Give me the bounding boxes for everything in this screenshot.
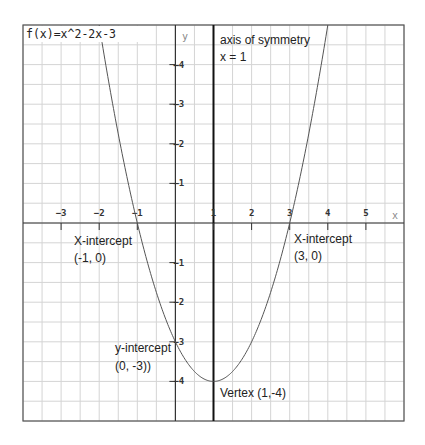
x-tick-label: 1 [211,208,216,218]
y-intercept-label: y-intercept [115,341,172,355]
y-tick-label: –1 [173,178,184,188]
x-axis-label: x [392,210,398,221]
y-tick-label: −4 [173,376,184,386]
chart-title: f(x)=x^2-2x-3 [26,27,116,41]
x-intercept-left-coords: (-1, 0) [74,251,106,265]
y-tick-label: –3 [173,99,184,109]
x-tick-label: −1 [132,208,143,218]
y-intercept-coords: (0, -3)) [115,359,151,373]
x-intercept-left-label: X-intercept [74,234,133,248]
axis-of-symmetry-label: axis of symmetry [220,33,310,47]
x-tick-label: −2 [94,208,105,218]
x-tick-label: 4 [325,208,331,218]
x-tick-label: 2 [249,208,254,218]
y-tick-label: −2 [173,297,184,307]
x-tick-label: −3 [56,208,67,218]
axis-of-symmetry-equation: x = 1 [220,50,247,64]
x-intercept-right-coords: (3, 0) [294,249,322,263]
vertex-label: Vertex (1,-4) [220,386,286,400]
function-graph: −3−2−112345–4–3–2–1−1−2−3−4 f(x)=x^2-2x-… [0,0,425,445]
x-tick-label: 5 [363,208,368,218]
y-tick-label: −1 [173,258,184,268]
x-intercept-right-label: X-intercept [294,232,353,246]
y-tick-label: –2 [173,139,184,149]
y-axis-label: y [182,31,188,42]
y-tick-label: –4 [173,60,184,70]
